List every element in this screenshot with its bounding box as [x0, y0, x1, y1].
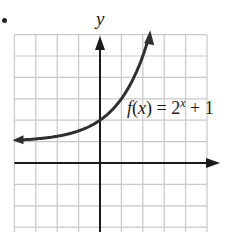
function-label: f(x) = 2x + 1 — [127, 96, 214, 119]
grid-lines — [14, 35, 207, 232]
curve-arrowheads — [12, 30, 154, 144]
y-axis-label: y — [94, 8, 105, 29]
exponential-graph: y f(x) = 2x + 1 — [0, 0, 226, 232]
axes — [14, 36, 220, 232]
function-curve — [18, 43, 148, 140]
